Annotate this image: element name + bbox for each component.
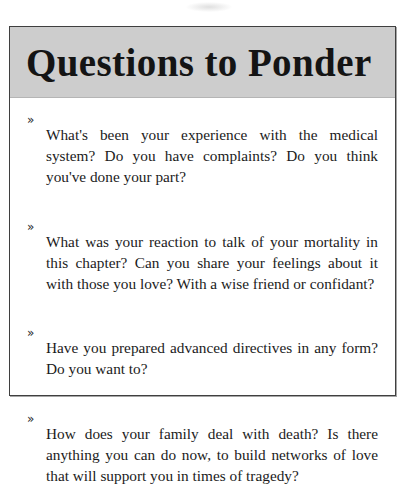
callout-header-band: Questions to Ponder <box>10 27 395 98</box>
questions-to-ponder-callout: Questions to Ponder » What's been your e… <box>9 26 396 396</box>
question-text: How does your family deal with death? Is… <box>46 423 378 486</box>
arrow-bullet-icon: » <box>27 322 46 344</box>
scan-artifact <box>186 2 232 12</box>
callout-body: » What's been your experience with the m… <box>10 98 395 488</box>
arrow-bullet-icon: » <box>27 109 46 131</box>
arrow-bullet-icon: » <box>27 216 46 238</box>
question-text: What's been your experience with the med… <box>46 124 378 187</box>
list-item: » What's been your experience with the m… <box>27 109 378 203</box>
page-title: Questions to Ponder <box>10 43 372 82</box>
list-item: » Have you prepared advanced directives … <box>27 322 378 395</box>
list-item: » How does your family deal with death? … <box>27 408 378 488</box>
question-text: Have you prepared advanced directives in… <box>46 337 378 379</box>
list-item: » What was your reaction to talk of your… <box>27 216 378 310</box>
arrow-bullet-icon: » <box>27 408 46 430</box>
question-list: » What's been your experience with the m… <box>27 109 378 488</box>
question-text: What was your reaction to talk of your m… <box>46 231 378 294</box>
